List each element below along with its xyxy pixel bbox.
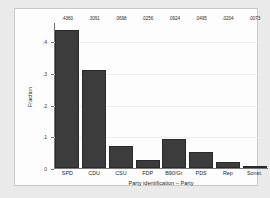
- bar-value-label: .0495: [195, 17, 207, 22]
- x-axis-line: [54, 168, 268, 169]
- bar-cdu[interactable]: .3091: [82, 70, 106, 168]
- y-tick-mark: 0: [51, 169, 54, 170]
- bar-csu[interactable]: .0698: [109, 146, 133, 168]
- x-tick-label: CDU: [81, 171, 107, 176]
- bar-slot: .0924: [161, 23, 187, 168]
- bar-series: .4360.3091.0698.0256.0924.0495.0204.0073: [54, 23, 268, 168]
- bar-fdp[interactable]: .0256: [136, 160, 160, 168]
- x-tick-label: CSU: [108, 171, 134, 176]
- bar-b90-gr[interactable]: .0924: [162, 139, 186, 168]
- y-axis-title: Fraction: [28, 87, 34, 107]
- y-tick-label: .2: [43, 103, 47, 108]
- x-tick-label: FDP: [135, 171, 161, 176]
- x-tick-label: Rep: [215, 171, 241, 176]
- bar-slot: .0204: [215, 23, 241, 168]
- bar-slot: .0495: [188, 23, 214, 168]
- bar-value-label: .0698: [115, 17, 127, 22]
- bar-value-label: .0073: [249, 17, 261, 22]
- x-tick-label: PDS: [188, 171, 214, 176]
- bar-pds[interactable]: .0495: [189, 152, 213, 168]
- y-tick-label: .3: [43, 71, 47, 76]
- bar-slot: .0073: [242, 23, 268, 168]
- x-tick-label: Sonst.: [242, 171, 268, 176]
- y-tick-label: 0: [44, 167, 47, 172]
- x-tick-label: B90/Gr.: [161, 171, 187, 176]
- chart-figure: Fraction 0.1.2.3.4 .4360.3091.0698.0256.…: [0, 0, 270, 198]
- bar-value-label: .3091: [88, 17, 100, 22]
- y-tick-label: .4: [43, 40, 47, 45]
- bar-slot: .3091: [81, 23, 107, 168]
- bar-slot: .0698: [108, 23, 134, 168]
- bar-slot: .4360: [54, 23, 80, 168]
- bar-sonst[interactable]: .0073: [243, 166, 267, 168]
- y-tick-label: .1: [43, 135, 47, 140]
- x-axis-title: Party identification – Party: [54, 181, 268, 187]
- plot-area-card: Fraction 0.1.2.3.4 .4360.3091.0698.0256.…: [14, 8, 258, 186]
- bar-value-label: .0924: [169, 17, 181, 22]
- plot-axes: 0.1.2.3.4 .4360.3091.0698.0256.0924.0495…: [54, 23, 268, 169]
- bar-value-label: .4360: [62, 17, 74, 22]
- bar-rep[interactable]: .0204: [216, 162, 240, 168]
- bar-value-label: .0204: [222, 17, 234, 22]
- bar-value-label: .0256: [142, 17, 154, 22]
- bar-spd[interactable]: .4360: [55, 30, 79, 168]
- x-tick-label: SPD: [54, 171, 80, 176]
- x-axis-tick-labels: SPDCDUCSUFDPB90/Gr.PDSRepSonst.: [54, 171, 268, 176]
- bar-slot: .0256: [135, 23, 161, 168]
